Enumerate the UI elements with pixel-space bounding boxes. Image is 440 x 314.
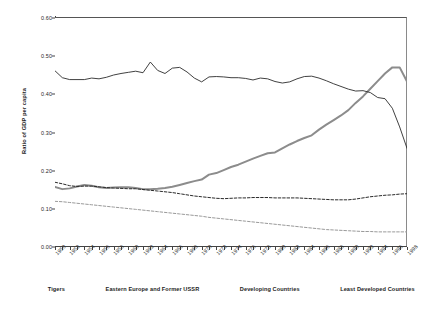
series-layer — [55, 17, 407, 246]
legend-item[interactable]: Developing Countries — [217, 286, 299, 292]
legend-item[interactable]: Tigers — [25, 286, 65, 292]
y-tick-label: 0.50 — [41, 53, 52, 59]
y-tick-label: 0.60 — [41, 15, 52, 21]
series-line — [55, 201, 407, 232]
legend-item[interactable]: Least Developed Countries — [318, 286, 415, 292]
legend-label: Eastern Europe and Former USSR — [106, 286, 200, 292]
y-tick-label: 0.20 — [41, 168, 52, 174]
legend-label: Tigers — [48, 286, 65, 292]
series-line — [55, 67, 407, 189]
figure-caption — [14, 304, 434, 313]
series-line — [55, 182, 407, 200]
y-axis-title: Ratio of GDP per capita — [21, 61, 27, 181]
chart-legend: TigersEastern Europe and Former USSRDeve… — [0, 283, 440, 295]
x-tick-group: 1950195219541956195819601962196419661968… — [55, 247, 407, 287]
legend-item[interactable]: Eastern Europe and Former USSR — [83, 286, 199, 292]
y-tick-label: 0.00 — [41, 244, 52, 250]
x-tick-label: 1998 — [406, 243, 419, 256]
y-tick-label: 0.30 — [41, 130, 52, 136]
y-tick-label: 0.10 — [41, 206, 52, 212]
legend-label: Developing Countries — [240, 286, 300, 292]
y-tick-label: 0.40 — [41, 91, 52, 97]
legend-label: Least Developed Countries — [340, 286, 415, 292]
figure-chart: Ratio of GDP per capita 0.000.100.200.30… — [0, 0, 440, 314]
